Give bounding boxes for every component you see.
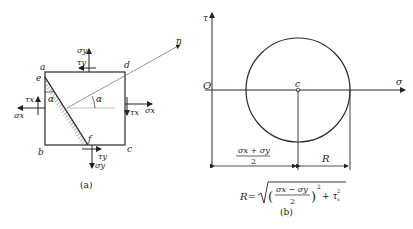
center-label: c <box>295 79 300 89</box>
paren-left: ( <box>268 189 273 204</box>
angle-label-e: α <box>48 94 54 104</box>
label-sigma-x-right: σx <box>145 106 155 115</box>
caption-a: (a) <box>80 180 92 190</box>
center-dim-numerator: σx + σy <box>238 146 270 155</box>
label-tau-y-top: τy <box>77 58 86 67</box>
vertex-a: a <box>40 62 45 72</box>
axis-sigma-label: σ <box>396 77 403 87</box>
vertex-d: d <box>124 60 130 70</box>
axis-tau-label: τ <box>203 13 209 23</box>
vertex-b: b <box>38 147 44 157</box>
radius-formula: R= ( σx − σy 2 ) 2 + τ 2 x <box>239 182 346 206</box>
normal-label-n: n <box>176 36 182 46</box>
radius-dim-label: R <box>321 153 330 164</box>
label-tau-x-right: τx <box>130 108 139 117</box>
label-sigma-y-top: σy <box>77 46 87 55</box>
formula-tail-sub: x <box>337 196 340 202</box>
figure-b: τ σ O c σx + σy 2 R R= ( σx − σy 2 ) 2 +… <box>203 13 405 217</box>
formula-tail-sup: 2 <box>337 188 340 194</box>
formula-lhs: R= <box>239 191 256 202</box>
vertex-c: c <box>127 144 132 154</box>
paren-right: ) <box>311 189 316 204</box>
vertex-f: f <box>87 134 93 144</box>
formula-tail: + τ <box>322 191 338 201</box>
origin-label: O <box>203 80 211 91</box>
label-sigma-x-left: σx <box>14 111 24 120</box>
angle-label-n: α <box>96 94 102 104</box>
formula-inner-denominator: 2 <box>290 197 295 206</box>
vertex-e: e <box>36 73 41 83</box>
label-sigma-y-bottom: σy <box>95 161 105 170</box>
label-tau-x-left: τx <box>25 95 34 104</box>
stress-diagram: a e d b c f n α α σy τy τx σx σx τx τy σ… <box>0 0 413 229</box>
formula-exponent: 2 <box>317 183 321 190</box>
center-dim-denominator: 2 <box>251 157 256 166</box>
element-square <box>45 72 125 145</box>
angle-arc-n <box>92 96 95 108</box>
figure-a: a e d b c f n α α σy τy τx σx σx τx τy σ… <box>14 36 182 190</box>
formula-inner-numerator: σx − σy <box>276 185 308 194</box>
inclined-plane-ef <box>45 77 88 145</box>
label-tau-y-bottom: τy <box>98 152 107 161</box>
caption-b: (b) <box>280 207 293 217</box>
